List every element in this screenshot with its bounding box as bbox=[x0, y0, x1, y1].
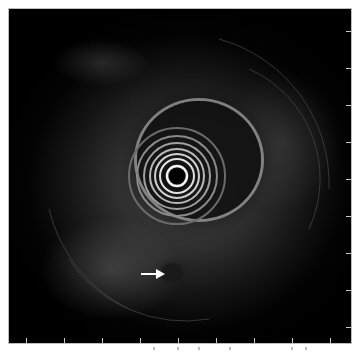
scale-tick bbox=[346, 327, 351, 328]
transducer-rings bbox=[9, 9, 351, 343]
scale-tick bbox=[346, 216, 351, 217]
arrow-annotation-icon bbox=[141, 269, 165, 279]
scale-tick bbox=[346, 179, 351, 180]
scale-tick bbox=[346, 142, 351, 143]
scale-tick bbox=[346, 68, 351, 69]
scale-tick bbox=[346, 105, 351, 106]
scale-tick bbox=[346, 253, 351, 254]
scale-tick bbox=[346, 31, 351, 32]
scale-tick bbox=[346, 290, 351, 291]
ultrasound-frame bbox=[8, 8, 352, 344]
bottom-margin bbox=[0, 343, 359, 354]
